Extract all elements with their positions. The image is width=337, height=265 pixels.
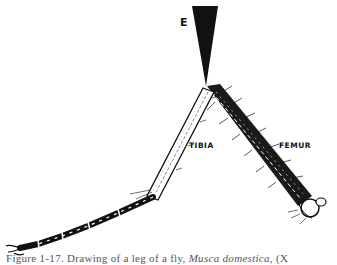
pointer-label-e: E — [180, 16, 188, 29]
caption-suffix: , (X — [270, 252, 288, 264]
femur-label: FEMUR — [279, 141, 311, 150]
pointer-wedge-icon — [192, 6, 218, 86]
caption-species: Musca domestica — [189, 252, 270, 264]
figure-caption: Figure 1-17. Drawing of a leg of a fly, … — [6, 252, 337, 264]
tarsus-segment — [20, 197, 153, 248]
tibia-label: TIBIA — [189, 141, 214, 150]
leg-drawing — [0, 0, 337, 265]
leg-illustration-figure: E TIBIA FEMUR Figure 1-17. Drawing of a … — [0, 0, 337, 265]
caption-prefix: Figure 1-17. Drawing of a leg of a fly, — [6, 252, 189, 264]
